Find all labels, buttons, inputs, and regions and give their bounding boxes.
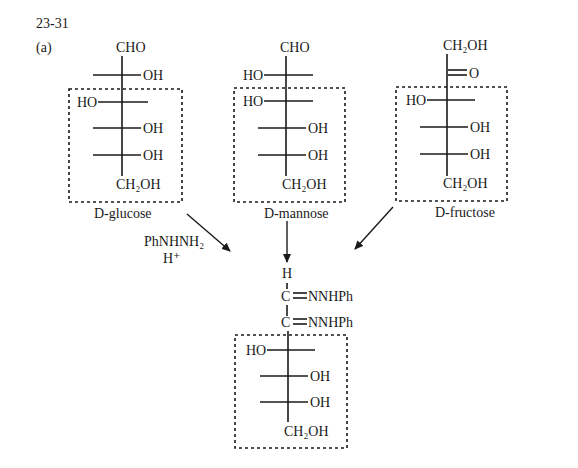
reagent-phenylhydrazine: PhNHNH₂ <box>144 234 204 249</box>
fructose-top-group: CH₂OH <box>443 38 488 53</box>
osazone-c1: C <box>281 289 290 304</box>
glucose-c5-oh: OH <box>143 148 163 163</box>
glucose-bottom-group: CH₂OH <box>116 177 161 192</box>
mannose-c5-oh: OH <box>308 148 328 163</box>
fructose-c4-oh: OH <box>470 120 490 135</box>
mannose-c3-ho: HO <box>243 94 263 109</box>
osazone-bottom-group: CH₂OH <box>284 424 329 439</box>
osazone-fischer-projection: H C NNHPh C NNHPh HO OH OH CH₂OH <box>235 266 353 448</box>
mannose-bottom-group: CH₂OH <box>282 177 327 192</box>
mannose-fischer-projection: CHO HO HO OH OH CH₂OH D-mannose <box>234 40 345 221</box>
fructose-c2-carbonyl-o: O <box>469 66 479 81</box>
glucose-c3-ho: HO <box>77 95 97 110</box>
fructose-fischer-projection: CH₂OH O HO OH OH CH₂OH D-fructose <box>396 38 507 220</box>
osazone-c2: C <box>281 315 290 330</box>
osazone-c2-nnhph: NNHPh <box>308 315 353 330</box>
glucose-fischer-projection: CHO OH HO OH OH CH₂OH D-glucose <box>69 40 182 221</box>
glucose-c4-oh: OH <box>143 121 163 136</box>
reagent-acid: H⁺ <box>163 251 181 266</box>
osazone-c5-oh: OH <box>310 395 330 410</box>
mannose-label: D-mannose <box>264 206 329 221</box>
osazone-c1-nnhph: NNHPh <box>308 289 353 304</box>
osazone-top-h: H <box>282 266 292 281</box>
mannose-top-group: CHO <box>280 40 310 55</box>
fructose-label: D-fructose <box>435 205 495 220</box>
fructose-bottom-group: CH₂OH <box>443 176 488 191</box>
glucose-label: D-glucose <box>94 206 152 221</box>
problem-number: 23-31 <box>36 16 69 31</box>
mannose-c4-oh: OH <box>308 121 328 136</box>
problem-part: (a) <box>36 40 52 56</box>
fructose-c5-oh: OH <box>470 147 490 162</box>
arrow-fructose-to-osazone <box>355 207 393 249</box>
fructose-c3-ho: HO <box>406 93 426 108</box>
osazone-c3-ho: HO <box>246 343 266 358</box>
mannose-c2-ho: HO <box>243 68 263 83</box>
glucose-c2-oh: OH <box>143 68 163 83</box>
osazone-c4-oh: OH <box>310 369 330 384</box>
osazone-formation-diagram: 23-31 (a) CHO OH HO OH OH CH₂OH D-glucos… <box>0 0 578 468</box>
glucose-top-group: CHO <box>116 40 146 55</box>
